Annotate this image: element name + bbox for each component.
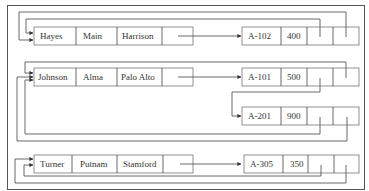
account-record-a101: A-101 500 bbox=[242, 68, 359, 86]
customer-record-hayes: Hayes Main Harrison bbox=[34, 27, 193, 45]
account-number: A-102 bbox=[248, 31, 271, 41]
account-balance: 350 bbox=[290, 159, 304, 169]
customer-street: Alma bbox=[83, 72, 103, 82]
account-record-a102: A-102 400 bbox=[242, 27, 359, 45]
customer-name: Johnson bbox=[38, 72, 68, 82]
customer-city: Harrison bbox=[122, 31, 154, 41]
account-record-a305: A-305 350 bbox=[244, 155, 359, 173]
account-number: A-305 bbox=[250, 159, 273, 169]
account-balance: 400 bbox=[287, 31, 301, 41]
customer-city: Stamford bbox=[123, 159, 157, 169]
customer-street: Putnam bbox=[80, 159, 108, 169]
customer-name: Turner bbox=[40, 159, 64, 169]
account-balance: 500 bbox=[287, 72, 301, 82]
customer-record-turner: Turner Putnam Stamford bbox=[34, 155, 193, 173]
customer-city: Palo Alto bbox=[121, 72, 155, 82]
account-number: A-201 bbox=[248, 111, 271, 121]
customer-name: Hayes bbox=[40, 31, 63, 41]
customer-street: Main bbox=[83, 31, 102, 41]
account-record-a201: A-201 900 bbox=[242, 107, 359, 125]
multilist-diagram: Hayes Main Harrison A-102 400 Johnson Al… bbox=[0, 0, 369, 191]
account-balance: 900 bbox=[287, 111, 301, 121]
customer-record-johnson: Johnson Alma Palo Alto bbox=[34, 68, 193, 86]
account-number: A-101 bbox=[248, 72, 271, 82]
